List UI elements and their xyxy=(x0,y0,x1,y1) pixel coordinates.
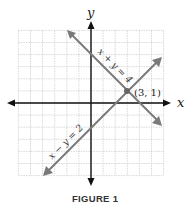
y-axis-top-arrow-icon xyxy=(88,21,95,29)
figure-caption: FIGURE 1 xyxy=(72,193,119,204)
x-axis-label: x xyxy=(177,95,185,110)
line-x-minus-y-eq-2 xyxy=(47,61,158,172)
x-axis-left-arrow-icon xyxy=(7,100,15,107)
x-axis-right-arrow-icon xyxy=(163,100,171,107)
intersection-label: (3, 1) xyxy=(134,87,161,98)
coordinate-graph: y x (3, 1) x + y = 4 x − y = 2 FIGURE 1 xyxy=(0,0,191,207)
intersection-point xyxy=(124,88,130,94)
line-x-plus-y-eq-4 xyxy=(70,33,158,121)
y-axis-label: y xyxy=(86,5,95,20)
y-axis-bottom-arrow-icon xyxy=(88,178,95,186)
